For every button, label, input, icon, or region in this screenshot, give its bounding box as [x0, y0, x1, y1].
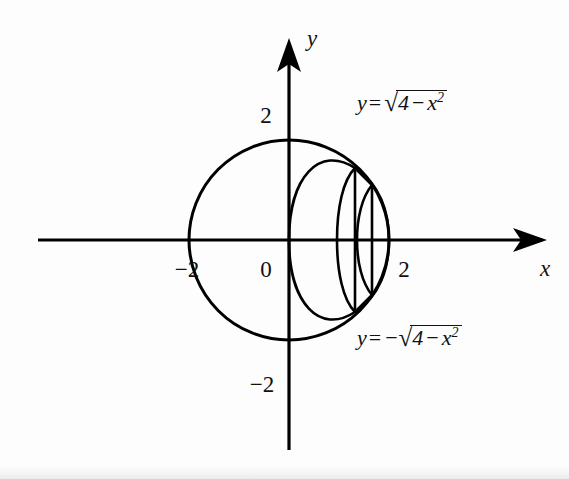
equation-lower-lhs: y: [357, 325, 367, 350]
equation-lower-radical: √4−x2: [398, 325, 462, 350]
figure-root: −2 0 2 2 −2 y x y=√4−x2 y=−√4−x2: [0, 0, 569, 479]
tick-label-y-positive-2: 2: [260, 103, 272, 128]
equation-upper-lhs: y: [357, 90, 367, 115]
y-axis-label: y: [305, 26, 318, 51]
equation-lower-radicand: 4−x2: [410, 325, 461, 349]
circle-cross-section-diagram: −2 0 2 2 −2 y x: [0, 0, 569, 479]
axes-group: [38, 38, 547, 450]
equation-upper-radicand: 4−x2: [396, 90, 447, 114]
tick-label-x-negative-2: −2: [175, 257, 199, 282]
equation-upper-radicand-minus: −: [409, 90, 427, 115]
equation-upper-radicand-b: x: [427, 90, 437, 115]
equation-upper-radical: √4−x2: [383, 90, 447, 115]
x-axis-label: x: [539, 256, 551, 281]
equation-lower-radicand-a: 4: [412, 325, 423, 350]
tick-label-y-negative-2: −2: [250, 372, 274, 397]
equation-lower-radicand-exponent: 2: [452, 325, 459, 340]
equation-label-lower-semicircle: y=−√4−x2: [357, 325, 462, 350]
equation-lower-radicand-minus: −: [423, 325, 441, 350]
slab-connector-bottom: [355, 295, 372, 312]
equation-lower-negative-sign: −: [383, 325, 397, 350]
equation-lower-radicand-b: x: [442, 325, 452, 350]
equation-label-upper-semicircle: y=√4−x2: [357, 90, 447, 115]
tick-label-origin: 0: [260, 257, 272, 282]
tick-label-x-positive-2: 2: [398, 257, 410, 282]
equation-upper-radicand-exponent: 2: [437, 90, 444, 105]
equation-upper-equals: =: [367, 90, 383, 115]
equation-lower-equals: =: [367, 325, 383, 350]
slab-connector-top: [355, 168, 372, 185]
equation-upper-radicand-a: 4: [398, 90, 409, 115]
